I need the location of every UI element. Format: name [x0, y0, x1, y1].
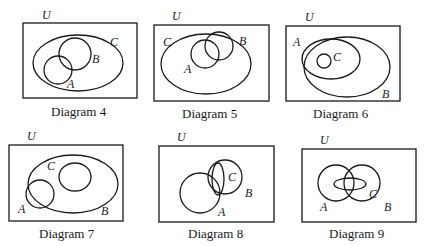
- diagram-9: U C A B Diagram 9: [302, 133, 416, 241]
- set-a-label: A: [183, 62, 192, 76]
- universe-label: U: [42, 8, 52, 22]
- set-a-label: A: [66, 77, 75, 91]
- set-c-label: C: [369, 187, 378, 201]
- diagram-caption: Diagram 9: [329, 226, 384, 241]
- set-b-label: B: [384, 200, 392, 214]
- universe-label: U: [320, 133, 330, 147]
- set-a-label: A: [319, 200, 328, 214]
- universe-rect: [154, 25, 269, 101]
- diagram-caption: Diagram 5: [182, 106, 237, 121]
- diagram-caption: Diagram 8: [188, 226, 243, 241]
- set-b-label: B: [239, 34, 247, 48]
- set-b-circle: [59, 38, 91, 70]
- set-a-label: A: [17, 202, 26, 216]
- set-b-label: B: [245, 186, 253, 200]
- universe-rect: [159, 146, 274, 222]
- diagram-5: U C B A Diagram 5: [154, 9, 269, 121]
- set-c-ellipse: [334, 178, 366, 190]
- set-c-label: C: [333, 50, 342, 64]
- set-c-label: C: [47, 159, 56, 173]
- universe-rect: [23, 23, 137, 98]
- set-b-ellipse: [304, 37, 390, 97]
- set-c-circle: [317, 54, 331, 68]
- set-b-label: B: [101, 204, 109, 218]
- set-a-circle: [180, 173, 220, 213]
- diagram-4: U C B A Diagram 4: [23, 8, 137, 119]
- set-a-label: A: [217, 205, 226, 219]
- diagram-8: U C B A Diagram 8: [159, 130, 274, 241]
- diagram-caption: Diagram 6: [313, 106, 369, 121]
- diagram-caption: Diagram 7: [39, 226, 95, 241]
- venn-diagrams-figure: U C B A Diagram 4 U C B A Diagram 5 U A …: [0, 0, 425, 246]
- set-c-label: C: [110, 35, 119, 49]
- set-a-label: A: [292, 35, 301, 49]
- universe-label: U: [177, 130, 187, 144]
- set-c-ellipse: [59, 163, 91, 191]
- set-b-label: B: [92, 52, 100, 66]
- set-c-label: C: [163, 35, 172, 49]
- diagram-7: U C A B Diagram 7: [9, 129, 123, 241]
- set-c-ellipse: [161, 34, 251, 94]
- universe-label: U: [305, 10, 315, 24]
- set-b-label: B: [382, 87, 390, 101]
- set-c-label: C: [228, 170, 237, 184]
- universe-label: U: [172, 9, 182, 23]
- universe-label: U: [27, 129, 37, 143]
- diagram-caption: Diagram 4: [51, 104, 107, 119]
- diagram-6: U A C B Diagram 6: [286, 10, 400, 121]
